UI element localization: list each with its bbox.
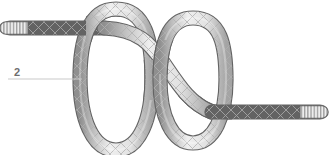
step-number-label: 2 (14, 67, 20, 78)
knot-svg-canvas (0, 0, 330, 155)
knot-illustration: 2 (0, 0, 330, 155)
rope-end-left-whipping (0, 22, 28, 34)
rope-end-right-whipping (300, 106, 328, 118)
